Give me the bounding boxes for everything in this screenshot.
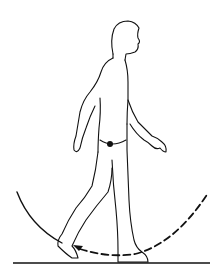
hip xyxy=(100,140,126,144)
walking-diagram xyxy=(0,0,224,279)
torso-back xyxy=(98,98,100,152)
diagram-canvas xyxy=(0,0,224,279)
solid-arc xyxy=(17,192,62,243)
center-of-mass-dot xyxy=(107,141,113,147)
rear-leg xyxy=(58,152,112,258)
chest xyxy=(125,60,128,124)
back xyxy=(74,58,113,152)
head xyxy=(112,21,140,60)
front-leg xyxy=(112,124,148,262)
walking-person xyxy=(58,21,166,262)
front-arm xyxy=(128,100,166,152)
